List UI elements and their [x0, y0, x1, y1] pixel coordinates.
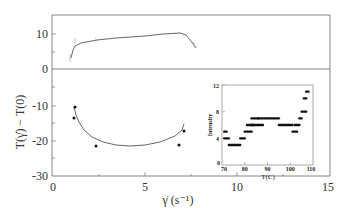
- chart: 10 0 -10 -20 -30 0 5 10 15 γ̇ (s⁻¹) T(γ̇…: [0, 0, 346, 208]
- inset-x-tick: 70: [221, 166, 227, 172]
- inset-y-tick: 12: [213, 83, 219, 89]
- x-tick-label: 10: [231, 180, 243, 194]
- lower-branch-points: [73, 106, 186, 148]
- x-tick-label: 5: [142, 180, 148, 194]
- x-axis-label: γ̇ (s⁻¹): [162, 193, 194, 207]
- lower-branch-fit: [74, 107, 184, 146]
- y-tick-label: 10: [36, 27, 48, 41]
- x-ticks: [99, 172, 283, 176]
- inset-x-tick: 90: [265, 166, 271, 172]
- inset-x-tick: 80: [242, 166, 248, 172]
- y-tick-label: -10: [32, 99, 48, 113]
- inset-y-tick: 4: [216, 136, 219, 142]
- y-tick-label: 0: [42, 62, 48, 76]
- y-axis-label: T(γ̇) − T(0): [13, 95, 27, 150]
- inset-y-tick: 8: [216, 109, 219, 115]
- x-tick-label: 15: [322, 180, 334, 194]
- y-tick-label: -30: [32, 169, 48, 183]
- inset-plot: 12 8 4 0 70 80 90 100 110 T(C) Intensity: [207, 83, 315, 181]
- inset-y-tick: 0: [217, 160, 220, 166]
- y-tick-label: -20: [32, 134, 48, 148]
- inset-x-tick: 110: [307, 166, 316, 172]
- inset-y-label: Intensity: [207, 114, 213, 137]
- y-ticks: [52, 34, 56, 158]
- upper-branch-line: [71, 33, 196, 58]
- inset-x-tick: 100: [286, 166, 295, 172]
- inset-x-label: T(C): [261, 173, 275, 181]
- x-tick-label: 0: [50, 180, 56, 194]
